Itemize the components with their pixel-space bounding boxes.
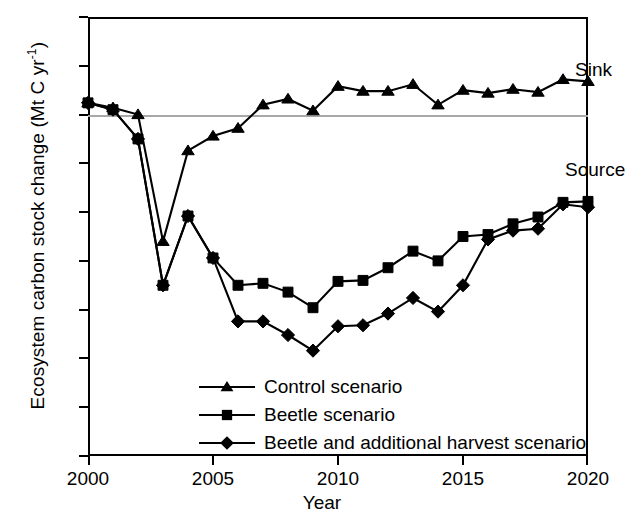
data-point-marker <box>408 246 418 256</box>
y-axis-tick <box>79 114 88 116</box>
y-axis-tick <box>79 455 88 457</box>
data-point-marker <box>458 232 468 242</box>
y-axis-title-exponent: -1 <box>25 48 39 59</box>
data-point-marker <box>557 74 569 84</box>
legend-item-diamond: Beetle and additional harvest scenario <box>196 429 586 457</box>
data-point-marker <box>281 328 294 341</box>
data-point-marker <box>333 276 343 286</box>
chart-figure: Ecosystem carbon stock change (Mt C yr-1… <box>0 0 644 521</box>
legend-symbol-diamond <box>196 433 258 453</box>
data-point-marker <box>231 315 244 328</box>
data-point-marker <box>157 236 169 246</box>
x-axis-tick-label: 2005 <box>178 468 248 490</box>
data-point-marker <box>383 263 393 273</box>
data-point-marker <box>258 278 268 288</box>
x-axis-tick-label: 2000 <box>53 468 123 490</box>
legend-item-square: Beetle scenario <box>196 401 586 429</box>
data-point-marker <box>533 212 543 222</box>
data-point-marker <box>407 79 419 89</box>
x-axis-tick <box>212 456 214 465</box>
data-point-marker <box>358 275 368 285</box>
y-axis-tick <box>79 211 88 213</box>
x-axis-tick-label: 2015 <box>428 468 498 490</box>
series-line <box>88 79 588 241</box>
x-axis-tick <box>586 456 588 465</box>
x-axis-tick-label: 2010 <box>303 468 373 490</box>
y-axis-tick <box>79 65 88 67</box>
x-axis-title: Year <box>0 492 644 514</box>
legend-item-triangle: Control scenario <box>196 373 586 401</box>
data-point-marker <box>256 315 269 328</box>
y-axis-tick <box>79 357 88 359</box>
source-region-label: Source <box>565 159 625 181</box>
y-axis-tick <box>79 16 88 18</box>
legend-symbol-triangle <box>196 377 258 397</box>
y-axis-tick <box>79 406 88 408</box>
y-axis-tick <box>79 260 88 262</box>
data-point-marker <box>507 84 519 94</box>
data-point-marker <box>406 291 419 304</box>
sink-region-label: Sink <box>575 59 612 81</box>
x-axis-tick <box>462 456 464 465</box>
y-axis-tick <box>79 162 88 164</box>
data-point-marker <box>356 319 369 332</box>
data-point-marker <box>182 145 194 155</box>
data-point-marker <box>332 81 344 91</box>
data-point-marker <box>283 287 293 297</box>
data-point-marker <box>282 93 294 103</box>
data-point-marker <box>381 307 394 320</box>
plot-area: 1050−5−10−15−20−25−30−35 200020052010201… <box>88 17 588 456</box>
chart-legend: Control scenarioBeetle scenarioBeetle an… <box>196 373 586 457</box>
y-axis-title-main: Ecosystem carbon stock change (Mt C yr <box>27 59 48 409</box>
data-point-marker <box>457 84 469 94</box>
legend-label: Beetle scenario <box>264 404 395 426</box>
legend-label: Control scenario <box>264 376 402 398</box>
x-axis-tick <box>337 456 339 465</box>
series-square <box>83 98 593 313</box>
legend-label: Beetle and additional harvest scenario <box>264 432 586 454</box>
data-point-marker <box>433 256 443 266</box>
legend-symbol-square <box>196 405 258 425</box>
data-point-marker <box>233 280 243 290</box>
x-axis-tick <box>88 456 90 465</box>
y-axis-tick <box>79 309 88 311</box>
data-point-marker <box>308 303 318 313</box>
y-axis-title-tail: ) <box>27 42 48 48</box>
x-axis-tick-label: 2020 <box>553 468 623 490</box>
y-axis-title: Ecosystem carbon stock change (Mt C yr-1… <box>25 6 48 446</box>
